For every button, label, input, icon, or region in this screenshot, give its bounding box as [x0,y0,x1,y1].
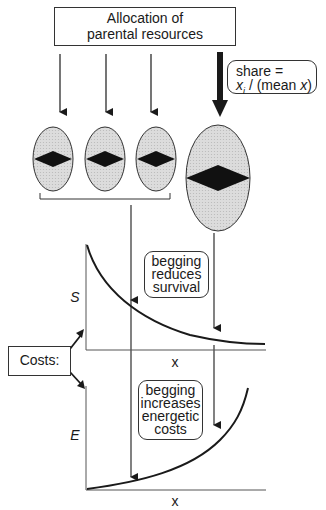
costs-box: Costs: [8,346,71,376]
large-egg [186,125,250,231]
costs-label: Costs: [9,353,70,368]
thick-arrow [212,52,228,117]
energy-line-4: costs [139,423,202,436]
allocation-arrows [60,54,151,112]
energy-ylabel: E [68,428,82,443]
allocation-line-2: parental resources [55,27,235,42]
costs-arrows [70,329,85,389]
survival-xlabel: x [168,355,182,370]
survival-box: begging reduces survival [144,251,209,298]
survival-line-3: survival [145,281,208,294]
bracket [40,193,170,199]
small-eggs [33,127,176,191]
energy-box: begging increases energetic costs [138,380,203,440]
share-box: share = xi / (mean x) [227,60,317,94]
survival-ylabel: S [68,290,82,305]
share-line-2: xi / (mean x) [236,79,312,98]
allocation-box: Allocation of parental resources [54,7,236,46]
allocation-line-1: Allocation of [55,11,235,26]
energy-xlabel: x [168,494,182,509]
